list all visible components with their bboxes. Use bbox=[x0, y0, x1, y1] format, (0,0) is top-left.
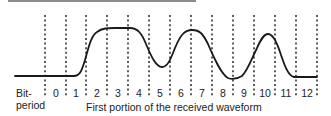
bit-period-label: 12 bbox=[297, 87, 317, 99]
bit-period-label: 5 bbox=[150, 87, 170, 99]
bit-period-label: 6 bbox=[171, 87, 191, 99]
waveform-diagram: Bit- period 0 1 2 3 4 5 6 7 8 9 10 11 12… bbox=[0, 0, 331, 116]
figure-caption: First portion of the received waveform bbox=[86, 101, 262, 113]
bit-period-label: 7 bbox=[192, 87, 212, 99]
bit-period-label: 1 bbox=[66, 87, 86, 99]
received-waveform bbox=[15, 28, 317, 79]
bit-period-label: 11 bbox=[276, 87, 296, 99]
bit-period-label: 0 bbox=[46, 87, 66, 99]
bit-period-label: 10 bbox=[255, 87, 275, 99]
bit-period-label: 8 bbox=[213, 87, 233, 99]
axis-label-bit: Bit- bbox=[16, 87, 32, 99]
bit-period-label: 9 bbox=[234, 87, 254, 99]
bit-period-label: 3 bbox=[108, 87, 128, 99]
axis-label-period: period bbox=[16, 99, 45, 111]
bit-period-label: 2 bbox=[87, 87, 107, 99]
bit-period-label: 4 bbox=[129, 87, 149, 99]
